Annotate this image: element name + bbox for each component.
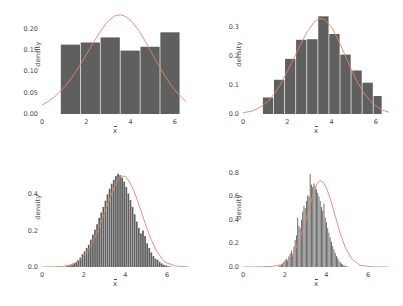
histogram-bar [146, 243, 148, 267]
histogram-bar [169, 266, 171, 267]
histogram-bar [163, 265, 165, 267]
x-tick-label: 2 [285, 118, 289, 126]
panel-bottom-right: density 0.00.20.40.60.8 0246 x [201, 153, 402, 306]
y-tick-label: 0.8 [229, 169, 239, 177]
histogram-bar [307, 195, 308, 267]
histogram-bar [339, 261, 340, 267]
histogram-bars [65, 174, 171, 267]
x-tick-label: 6 [165, 271, 169, 279]
x-tick-label: 2 [283, 271, 287, 279]
plot-area-bottom-left: density 0.00.20.4 0246 x [42, 167, 188, 267]
histogram-bar [307, 39, 317, 114]
histogram-bar [167, 266, 169, 267]
histogram-bar [128, 193, 130, 267]
y-tick-label: 0.05 [24, 89, 38, 97]
histogram-bar [302, 212, 303, 267]
plot-area-bottom-right: density 0.00.20.40.60.8 0246 x [243, 167, 389, 267]
histogram-bar [84, 251, 86, 267]
histogram-bar [314, 183, 315, 267]
y-tick-label: 0.4 [28, 190, 38, 198]
y-tick-label: 0.1 [229, 81, 239, 89]
histogram-bar [286, 259, 287, 267]
y-tick-label: 0.3 [229, 23, 239, 31]
x-tick-label: 4 [329, 118, 333, 126]
histogram-bar [150, 252, 152, 267]
y-tick-label: 0.0 [229, 110, 239, 118]
histogram-bar [293, 246, 294, 267]
histogram-bar [306, 201, 307, 267]
histogram-bar [278, 266, 279, 267]
x-tick-label: 2 [82, 271, 86, 279]
histogram-bar [280, 265, 281, 267]
histogram-bar [330, 238, 331, 267]
histogram-bar [81, 43, 100, 114]
histogram-bar [334, 249, 335, 267]
y-tick-label: 0.4 [229, 216, 239, 224]
histogram-bar [117, 174, 119, 267]
plot-canvas-bottom-left [42, 167, 188, 267]
histogram-bar [157, 260, 159, 267]
plot-canvas-top-right [243, 14, 389, 114]
histogram-bar [324, 203, 325, 267]
histogram-bar [65, 266, 67, 267]
histogram-bar [285, 59, 295, 114]
histogram-bar [320, 201, 321, 267]
histogram-bar [300, 228, 301, 267]
histogram-bar [101, 37, 120, 114]
x-tick-label: 6 [173, 118, 177, 126]
panel-bottom-left: density 0.00.20.4 0246 x [0, 153, 201, 306]
histogram-bar [329, 34, 339, 114]
histogram-bar [121, 51, 140, 114]
histogram-bar [351, 71, 361, 114]
x-tick-label: 6 [366, 271, 370, 279]
y-tick-label: 0.10 [24, 67, 38, 75]
histogram-bar [311, 185, 312, 267]
x-tick-label: 4 [324, 271, 328, 279]
histogram-bar [115, 176, 117, 267]
histogram-bar [319, 196, 320, 267]
histogram-bar [153, 256, 155, 267]
histogram-bar [130, 200, 132, 267]
histogram-bar [318, 16, 328, 114]
histogram-bar [67, 266, 69, 267]
histogram-bar [321, 207, 322, 267]
histogram-bar [291, 251, 292, 267]
histogram-bar [159, 262, 161, 267]
plot-canvas-bottom-right [243, 167, 389, 267]
histogram-bar [305, 208, 306, 267]
histogram-bar [332, 246, 333, 267]
histogram-bar [312, 187, 313, 267]
histogram-bar [303, 206, 304, 267]
y-tick-label: 0.2 [229, 239, 239, 247]
histogram-bars [61, 32, 180, 114]
histogram-bar [132, 207, 134, 267]
histogram-bar [71, 265, 73, 267]
x-tick-label: 6 [374, 118, 378, 126]
histogram-bar [327, 228, 328, 267]
plot-area-top-right: density 0.00.10.20.3 0246 x [243, 14, 389, 114]
histogram-bar [325, 218, 326, 267]
histogram-bar [121, 178, 123, 267]
histogram-bar [123, 182, 125, 267]
histogram-bar [119, 175, 121, 267]
histogram-bar [298, 226, 299, 267]
x-tick-label: 0 [40, 271, 44, 279]
histogram-bar [362, 83, 372, 114]
histogram-bar [301, 220, 302, 267]
histogram-bar [155, 259, 157, 267]
histogram-bar [344, 265, 345, 267]
histogram-bar [290, 253, 291, 267]
histogram-bar [148, 248, 150, 267]
histogram-bar [310, 174, 311, 267]
x-axis-label: x [314, 127, 318, 135]
y-tick-label: 0.00 [24, 110, 38, 118]
x-axis-label: x [113, 280, 117, 288]
y-axis-label: density [235, 177, 243, 237]
histogram-bar [345, 266, 346, 267]
histogram-bar [136, 222, 138, 267]
histogram-bar [134, 214, 136, 267]
x-tick-label: 2 [84, 118, 88, 126]
histogram-bar [274, 80, 284, 114]
histogram-bar [140, 233, 142, 267]
histogram-bar [335, 253, 336, 267]
